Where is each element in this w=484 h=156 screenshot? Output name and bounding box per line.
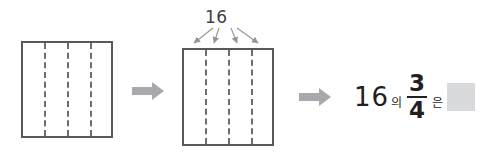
distribution-arrow-2 — [214, 28, 219, 43]
worksheet-diagram: 16 16 의 3 4 은 — [0, 0, 484, 156]
step2-divider-1 — [205, 50, 207, 144]
distribution-label: 16 — [205, 7, 228, 27]
distribution-arrow-1 — [194, 28, 213, 43]
step2-rectangle — [182, 48, 274, 146]
step2-divider-2 — [228, 50, 230, 144]
answer-input-box[interactable] — [447, 83, 475, 111]
step1-divider-3 — [90, 43, 92, 136]
equation-expression: 16 의 3 4 은 — [354, 78, 445, 116]
distribution-arrow-4 — [237, 28, 258, 43]
equation-particle-of: 의 — [389, 93, 404, 110]
equation-whole-number: 16 — [354, 82, 389, 112]
step1-rectangle — [21, 41, 113, 138]
fraction-numerator: 3 — [409, 72, 425, 96]
equation-particle-is: 은 — [430, 93, 445, 110]
fraction-denominator: 4 — [409, 98, 425, 122]
equation-fraction: 3 4 — [407, 72, 427, 122]
step1-divider-2 — [67, 43, 69, 136]
transition-arrow-1 — [132, 82, 164, 100]
step2-divider-3 — [251, 50, 253, 144]
distribution-arrows — [182, 26, 274, 50]
distribution-arrow-3 — [231, 28, 237, 43]
step1-divider-1 — [44, 43, 46, 136]
transition-arrow-2 — [299, 88, 331, 106]
